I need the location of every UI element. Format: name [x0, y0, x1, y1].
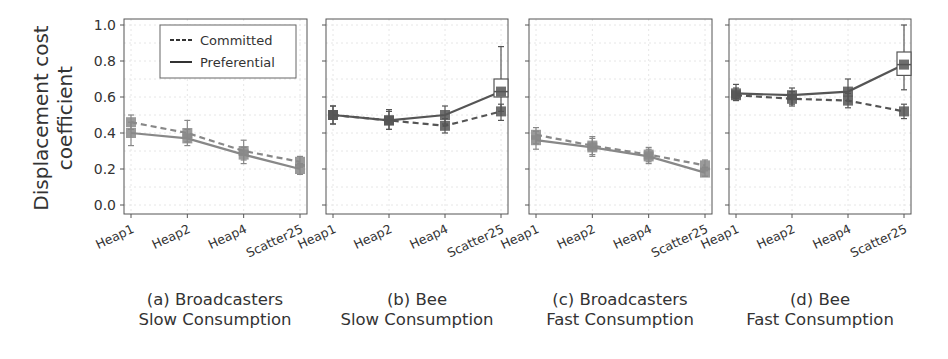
data-point	[328, 110, 338, 120]
series-committed	[536, 135, 705, 166]
y-tick-label: 0.0	[94, 197, 116, 213]
y-tick-label: 0.4	[94, 125, 116, 141]
data-point	[843, 87, 853, 97]
legend-preferential: Preferential	[200, 55, 275, 70]
data-point	[126, 128, 136, 138]
series-preferential	[736, 65, 904, 96]
legend-committed: Committed	[200, 33, 272, 48]
x-tick-label: Heap2	[149, 221, 192, 252]
data-point	[787, 90, 797, 100]
data-point	[440, 110, 450, 120]
series-committed	[736, 95, 904, 111]
series-preferential	[536, 140, 705, 172]
data-point	[644, 151, 654, 161]
data-point	[295, 164, 305, 174]
data-point	[899, 106, 909, 116]
data-point	[182, 133, 192, 143]
x-tick-label: Heap2	[351, 221, 394, 252]
caption-c: (c) BroadcastersFast Consumption	[520, 290, 720, 330]
data-point	[731, 88, 741, 98]
series-preferential	[333, 92, 501, 121]
caption-d: (d) BeeFast Consumption	[720, 290, 920, 330]
caption-a: (a) BroadcastersSlow Consumption	[115, 290, 315, 330]
y-tick-label: 0.8	[94, 53, 116, 69]
data-point	[899, 60, 909, 70]
legend: Committed Preferential	[160, 25, 296, 78]
x-tick-label: Heap2	[554, 221, 597, 252]
x-tick-label: Heap2	[754, 221, 797, 252]
x-tick-label: Heap4	[206, 221, 249, 252]
data-point	[496, 87, 506, 97]
data-point	[587, 142, 597, 152]
series-committed	[131, 122, 300, 162]
panel-d: Heap1Heap2Heap4Scatter25	[698, 19, 911, 261]
svg-text:Displacement cost: Displacement cost	[29, 25, 53, 211]
data-point	[384, 115, 394, 125]
y-axis-label: Displacement cost coefficient	[29, 25, 77, 211]
data-point	[531, 135, 541, 145]
x-tick-label: Heap1	[498, 221, 541, 252]
x-tick-label: Scatter25	[848, 221, 910, 260]
data-point	[239, 150, 249, 160]
data-point	[700, 168, 710, 178]
y-tick-label: 0.2	[94, 161, 116, 177]
x-tick-label: Heap1	[295, 221, 338, 252]
x-tick-label: Heap4	[611, 221, 654, 252]
svg-text:coefficient: coefficient	[53, 66, 77, 170]
caption-b: (b) BeeSlow Consumption	[317, 290, 517, 330]
y-tick-label: 0.6	[94, 89, 116, 105]
x-tick-label: Scatter25	[445, 221, 507, 260]
panel-b: Heap1Heap2Heap4Scatter25	[295, 19, 508, 261]
panel-c: Heap1Heap2Heap4Scatter25	[498, 19, 712, 261]
x-tick-label: Heap1	[93, 221, 136, 252]
y-tick-label: 1.0	[94, 17, 116, 33]
